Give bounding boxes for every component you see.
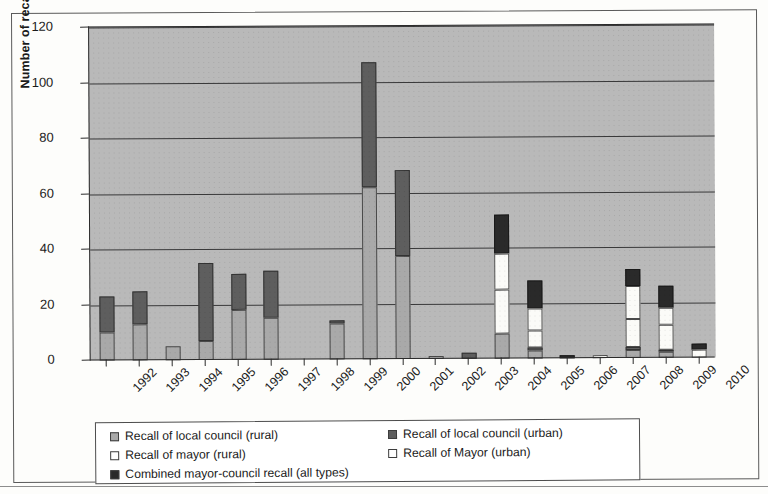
bar-2004[interactable]: [494, 214, 510, 358]
bar-segment-2001-s1[interactable]: [395, 170, 410, 256]
x-tick-mark: [304, 359, 305, 366]
legend-item-3[interactable]: Recall of Mayor (urban): [388, 446, 530, 459]
x-tick-label-2005: 2005: [558, 363, 588, 393]
bar-segment-1992-s1[interactable]: [99, 297, 114, 333]
y-tick-label: 100: [13, 75, 53, 88]
bar-segment-1995-s0[interactable]: [198, 341, 213, 360]
y-axis-title: Number of recall votes: [18, 0, 33, 110]
x-tick-label-2008: 2008: [657, 363, 687, 393]
legend-label: Recall of Mayor (urban): [403, 446, 530, 459]
x-tick-mark: [435, 358, 436, 365]
x-tick-mark: [698, 357, 699, 364]
bar-segment-1995-s1[interactable]: [198, 263, 213, 341]
bar-segment-1997-s1[interactable]: [264, 271, 279, 318]
legend-item-0[interactable]: Recall of local council (rural): [110, 429, 278, 442]
x-tick-mark: [271, 359, 272, 366]
x-tick-mark: [139, 359, 140, 366]
legend-label: Recall of local council (urban): [403, 427, 563, 440]
bar-segment-2009-s3[interactable]: [659, 308, 674, 325]
x-tick-mark: [336, 358, 337, 365]
bar-1992[interactable]: [99, 297, 114, 361]
bar-segment-1999-s0[interactable]: [330, 323, 345, 359]
x-tick-label-1994: 1994: [196, 365, 226, 395]
bar-1997[interactable]: [264, 271, 279, 360]
bar-2001[interactable]: [395, 170, 411, 359]
bar-2000[interactable]: [361, 62, 377, 359]
x-tick-label-2000: 2000: [394, 364, 424, 394]
bar-segment-2004-s0[interactable]: [494, 334, 509, 359]
x-tick-mark: [534, 357, 535, 364]
bar-segment-2008-s4[interactable]: [626, 269, 641, 286]
x-tick-label-1999: 1999: [361, 364, 391, 394]
gridline: [89, 25, 714, 29]
x-tick-label-2009: 2009: [690, 363, 720, 393]
bar-segment-2000-s1[interactable]: [361, 62, 377, 187]
black-swatch: [110, 470, 119, 479]
bar-segment-1993-s0[interactable]: [132, 324, 147, 360]
figure-inner: Number of recall votes 020406080100120 1…: [12, 10, 758, 482]
bar-segment-2009-s4[interactable]: [658, 286, 673, 308]
bar-2009[interactable]: [658, 286, 673, 358]
bar-1993[interactable]: [132, 291, 147, 360]
white-swatch: [388, 449, 397, 458]
bar-2005[interactable]: [527, 281, 542, 359]
bar-1999[interactable]: [330, 321, 345, 360]
x-tick-label-2004: 2004: [525, 363, 555, 393]
dark-gray-swatch: [388, 430, 397, 439]
x-tick-mark: [238, 359, 239, 366]
legend-label: Combined mayor-council recall (all types…: [125, 466, 349, 480]
bar-segment-2001-s0[interactable]: [395, 256, 411, 359]
x-tick-label-1993: 1993: [163, 365, 193, 395]
y-tick-label: 40: [14, 242, 54, 255]
x-tick-label-2007: 2007: [624, 363, 654, 393]
bar-segment-2004-s4[interactable]: [494, 214, 509, 253]
bar-segment-1997-s0[interactable]: [264, 318, 279, 360]
bar-segment-2005-s3[interactable]: [527, 309, 542, 331]
y-tick-label: 120: [13, 20, 53, 33]
bar-segment-1996-s1[interactable]: [231, 274, 246, 310]
x-tick-label-2002: 2002: [459, 364, 489, 394]
bar-segment-2008-s3[interactable]: [626, 286, 641, 319]
bar-segment-2005-s4[interactable]: [527, 281, 542, 309]
legend-item-4[interactable]: Combined mayor-council recall (all types…: [110, 466, 349, 480]
bar-1996[interactable]: [231, 274, 246, 360]
bar-segment-2008-s2[interactable]: [626, 319, 641, 347]
legend: Recall of local council (rural)Recall of…: [95, 418, 640, 484]
bar-segment-2009-s2[interactable]: [659, 324, 674, 349]
page-bottom-rule: [0, 486, 768, 487]
light-gray-swatch: [110, 432, 119, 441]
x-tick-mark: [567, 357, 568, 364]
x-tick-label-2010: 2010: [723, 362, 753, 392]
bar-segment-2004-s3[interactable]: [494, 253, 509, 289]
gridlines: [89, 25, 714, 28]
gridline: [89, 80, 714, 84]
bar-1995[interactable]: [198, 263, 213, 360]
legend-item-2[interactable]: Recall of mayor (rural): [110, 448, 246, 461]
bar-segment-1994-s0[interactable]: [165, 346, 180, 360]
legend-label: Recall of local council (rural): [125, 429, 278, 442]
x-tick-label-1995: 1995: [229, 365, 259, 395]
legend-item-1[interactable]: Recall of local council (urban): [388, 427, 563, 441]
figure-frame: Number of recall votes 020406080100120 1…: [11, 9, 759, 483]
y-tick-label: 60: [14, 186, 54, 199]
bar-2010[interactable]: [692, 344, 707, 358]
bar-segment-1996-s0[interactable]: [231, 310, 246, 360]
x-tick-mark: [632, 357, 633, 364]
x-tick-mark: [369, 358, 370, 365]
bar-segment-2000-s0[interactable]: [362, 187, 378, 359]
x-tick-label-1996: 1996: [262, 365, 292, 395]
gridline: [90, 136, 715, 140]
x-tick-mark: [468, 358, 469, 365]
white-swatch: [110, 451, 119, 460]
x-tick-mark: [172, 359, 173, 366]
bar-segment-2005-s2[interactable]: [527, 331, 542, 348]
bar-1994[interactable]: [165, 346, 180, 360]
y-tick-label: 0: [15, 353, 55, 366]
x-tick-mark: [665, 357, 666, 364]
bar-segment-1992-s0[interactable]: [100, 333, 115, 361]
bar-2008[interactable]: [626, 269, 641, 358]
bar-segment-2004-s2[interactable]: [494, 289, 509, 333]
bar-segment-1993-s1[interactable]: [132, 291, 147, 324]
x-tick-label-1998: 1998: [328, 364, 358, 394]
x-tick-label-2006: 2006: [591, 363, 621, 393]
